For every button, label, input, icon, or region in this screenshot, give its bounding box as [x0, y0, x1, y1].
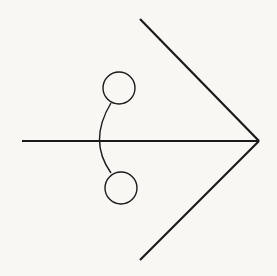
- diagram-canvas: [0, 0, 277, 276]
- upper-diagonal-line: [140, 19, 259, 141]
- bottom-circle: [105, 172, 137, 204]
- lower-diagonal-line: [140, 141, 259, 260]
- arrow-diagram: [0, 0, 277, 276]
- connecting-arc: [100, 103, 112, 173]
- top-circle: [103, 72, 135, 104]
